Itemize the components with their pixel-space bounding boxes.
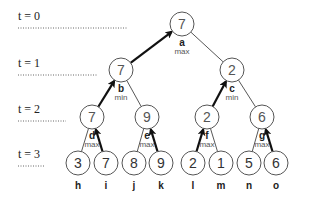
leaf-node-n: 5n [237,151,261,191]
leaf-name: j [132,180,136,191]
chosen-edge-arrow [213,81,226,106]
leaf-value: 3 [74,155,82,171]
node-type: min [226,93,239,102]
leaf-node-i: 7i [94,151,118,191]
tree-node-c: 2cmin [220,58,244,102]
leaf-name: n [246,180,252,191]
minimax-game-tree: t = 0t = 1t = 2t = 3 7amax7bmin2cmin7dma… [0,0,309,205]
time-label: t = 2 [18,102,40,116]
node-type: max [84,140,99,149]
leaf-name: o [273,180,279,191]
leaf-value: 5 [245,155,253,171]
tree-edge [127,81,141,107]
leaf-value: 9 [157,155,165,171]
time-label: t = 3 [18,147,40,161]
node-value: 7 [178,16,186,32]
node-type: max [199,140,214,149]
leaf-name: m [217,180,226,191]
leaf-value: 2 [189,155,197,171]
leaf-name: i [105,180,108,191]
node-value: 2 [228,62,236,78]
tree-node-f: 2fmax [195,105,219,149]
node-value: 9 [143,109,151,125]
tree-node-b: 7bmin [109,58,133,102]
node-type: max [254,140,269,149]
node-value: 7 [88,109,96,125]
tree-node-a: 7amax [170,12,194,56]
leaf-name: h [75,180,81,191]
chosen-edge-arrow [131,32,172,63]
node-type: max [139,140,154,149]
leaf-value: 8 [130,155,138,171]
node-type: min [115,93,128,102]
node-value: 6 [258,109,266,125]
node-value: 2 [203,109,211,125]
leaf-value: 7 [102,155,110,171]
leaf-name: l [192,180,195,191]
leaf-value: 1 [217,155,225,171]
tree-nodes: 7amax7bmin2cmin7dmax9emax2fmax6gmax3h7i8… [66,12,288,191]
time-label: t = 0 [18,9,40,23]
tree-edge [191,32,223,62]
leaf-node-l: 2l [181,151,205,191]
node-value: 7 [117,62,125,78]
leaf-value: 6 [272,155,280,171]
tree-edge [238,80,255,107]
leaf-name: k [158,180,164,191]
leaf-node-k: 9k [149,151,173,191]
leaf-node-j: 8j [122,151,146,191]
leaf-node-m: 1m [209,151,233,191]
chosen-edge-arrow [98,81,114,107]
leaf-node-h: 3h [66,151,90,191]
leaf-node-o: 6o [264,151,288,191]
node-type: max [174,47,189,56]
time-label: t = 1 [18,56,40,70]
